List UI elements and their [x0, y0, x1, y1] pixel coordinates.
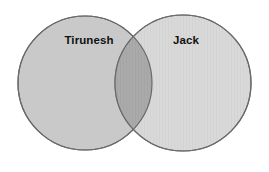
venn-label-right: Jack: [173, 34, 199, 46]
venn-diagram: Tirunesh Jack: [0, 0, 269, 172]
venn-label-left: Tirunesh: [64, 34, 113, 46]
venn-diagram-canvas: Tirunesh Jack: [0, 0, 269, 172]
